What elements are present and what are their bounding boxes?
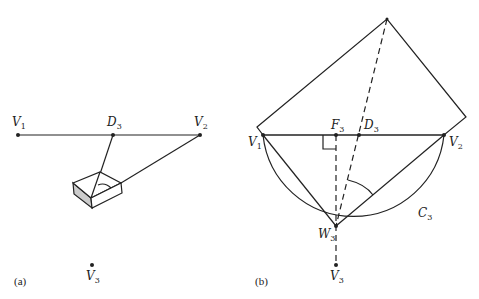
line-v2-box [121,135,200,183]
square [257,19,466,135]
label-d3-b: D3 [364,119,379,134]
caption-b: (b) [255,275,268,287]
label-v3-b: V3 [330,270,344,285]
label-c3-b: C3 [418,207,432,222]
diagram-svg [0,0,479,299]
label-f3-b: F3 [331,119,344,134]
caption-a: (a) [14,275,26,287]
semicircle-c3 [263,135,444,216]
angle-arc-b [348,180,373,195]
label-v3-a: V3 [86,270,100,285]
figure: V1 D3 V2 V3 (a) V1 F3 D3 V2 W3 C3 V3 (b) [0,0,479,299]
label-w3-b: W3 [318,228,335,243]
label-v2-b: V2 [449,136,463,151]
label-v1-a: V1 [12,116,26,131]
label-v2-a: V2 [194,116,208,131]
label-d3-a: D3 [107,116,122,131]
right-angle-mark [323,135,336,149]
label-v1-b: V1 [248,136,262,151]
